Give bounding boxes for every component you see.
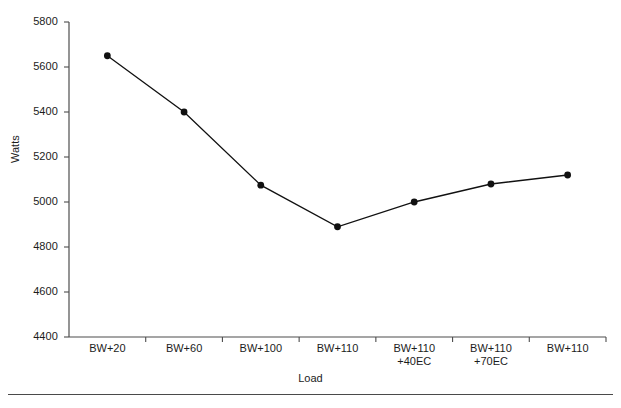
x-axis-tick-label-line: BW+60 xyxy=(146,342,223,355)
data-series-markers xyxy=(104,52,571,230)
x-axis-tick-label-line: +70EC xyxy=(453,355,530,368)
x-axis-tick-label: BW+60 xyxy=(146,342,223,376)
x-axis-title: Load xyxy=(0,372,621,384)
y-axis-ticks xyxy=(64,22,69,337)
x-axis-tick-label-line: BW+110 xyxy=(529,342,606,355)
x-axis-tick-label-line: +40EC xyxy=(376,355,453,368)
x-axis-tick-label: BW+20 xyxy=(69,342,146,376)
data-point xyxy=(411,199,418,206)
x-axis-tick-label-line: BW+110 xyxy=(299,342,376,355)
data-point xyxy=(488,181,495,188)
x-axis-tick-label-line: BW+20 xyxy=(69,342,146,355)
x-axis-tick-label-line: BW+110 xyxy=(453,342,530,355)
x-axis-tick-label: BW+110+40EC xyxy=(376,342,453,376)
data-series-line xyxy=(107,56,567,227)
figure-container: 58005600540052005000480046004400 Watts B… xyxy=(0,0,621,408)
footer-divider xyxy=(8,394,613,395)
data-point xyxy=(181,109,188,116)
x-axis-tick-label: BW+110 xyxy=(299,342,376,376)
x-axis-tick-label: BW+110+70EC xyxy=(453,342,530,376)
data-point xyxy=(257,182,264,189)
data-point xyxy=(334,223,341,230)
data-point xyxy=(564,172,571,179)
x-axis-tick-label-line: BW+110 xyxy=(376,342,453,355)
x-axis-tick-labels: BW+20BW+60BW+100BW+110BW+110+40ECBW+110+… xyxy=(69,342,606,376)
data-point xyxy=(104,52,111,59)
x-axis-tick-label: BW+100 xyxy=(222,342,299,376)
x-axis-tick-label: BW+110 xyxy=(529,342,606,376)
x-axis-tick-label-line: BW+100 xyxy=(222,342,299,355)
